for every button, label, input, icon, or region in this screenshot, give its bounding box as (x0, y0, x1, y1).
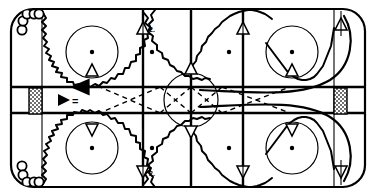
faceoff-dot-bottom-right (290, 146, 294, 150)
faceoff-dot-top-right (290, 50, 294, 54)
faceoff-dot-bottom-left (90, 146, 94, 150)
neutral-dot-top-left (150, 50, 154, 54)
diagram-canvas: = 2. 2. (0, 0, 376, 196)
player-marker (17, 161, 26, 170)
legend-equals: = (72, 95, 78, 107)
neutral-dot-top-right (227, 50, 231, 54)
neutral-dot-bottom-left (150, 146, 154, 150)
net-left (29, 88, 42, 114)
net-right (334, 88, 347, 114)
neutral-dot-bottom-right (227, 146, 231, 150)
player-marker (34, 177, 43, 186)
hockey-rink-diagram: = 2. 2. (0, 0, 376, 196)
annotation-top: 2. (149, 26, 155, 33)
annotation-bottom: 2. (149, 170, 155, 177)
player-marker (17, 25, 26, 34)
player-marker (34, 9, 43, 18)
faceoff-dot-top-left (90, 50, 94, 54)
